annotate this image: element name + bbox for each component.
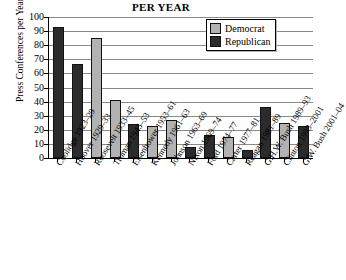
y-tick-label: 70 xyxy=(22,54,44,64)
y-tick-label: 80 xyxy=(22,40,44,50)
y-tick-mark xyxy=(44,88,48,89)
y-tick-label: 10 xyxy=(22,139,44,149)
y-tick-mark xyxy=(44,116,48,117)
legend-label-democrat: Democrat xyxy=(225,23,264,34)
bar-republican xyxy=(53,27,64,158)
y-tick-mark xyxy=(44,144,48,145)
y-tick-mark xyxy=(44,59,48,60)
y-tick-mark xyxy=(44,158,48,159)
y-tick-label: 30 xyxy=(22,111,44,121)
y-tick-mark xyxy=(44,73,48,74)
y-tick-label: 20 xyxy=(22,125,44,135)
y-tick-mark xyxy=(44,102,48,103)
legend-swatch-democrat-icon xyxy=(210,23,221,34)
y-tick-label: 50 xyxy=(22,83,44,93)
y-tick-label: 100 xyxy=(22,12,44,22)
legend-item-democrat: Democrat xyxy=(210,22,271,35)
legend-swatch-republican-icon xyxy=(210,36,221,47)
y-tick-mark xyxy=(44,17,48,18)
chart-legend: Democrat Republican xyxy=(206,19,276,51)
x-axis-labels: Coolidge 1923–29Hoover 1929–33Roosevelt … xyxy=(0,160,322,280)
y-tick-label: 90 xyxy=(22,26,44,36)
y-tick-label: 40 xyxy=(22,97,44,107)
y-tick-mark xyxy=(44,31,48,32)
y-tick-mark xyxy=(44,45,48,46)
chart-title: PER YEAR xyxy=(0,1,322,13)
y-tick-mark xyxy=(44,130,48,131)
y-tick-label: 60 xyxy=(22,68,44,78)
legend-label-republican: Republican xyxy=(225,36,271,47)
legend-item-republican: Republican xyxy=(210,35,271,48)
